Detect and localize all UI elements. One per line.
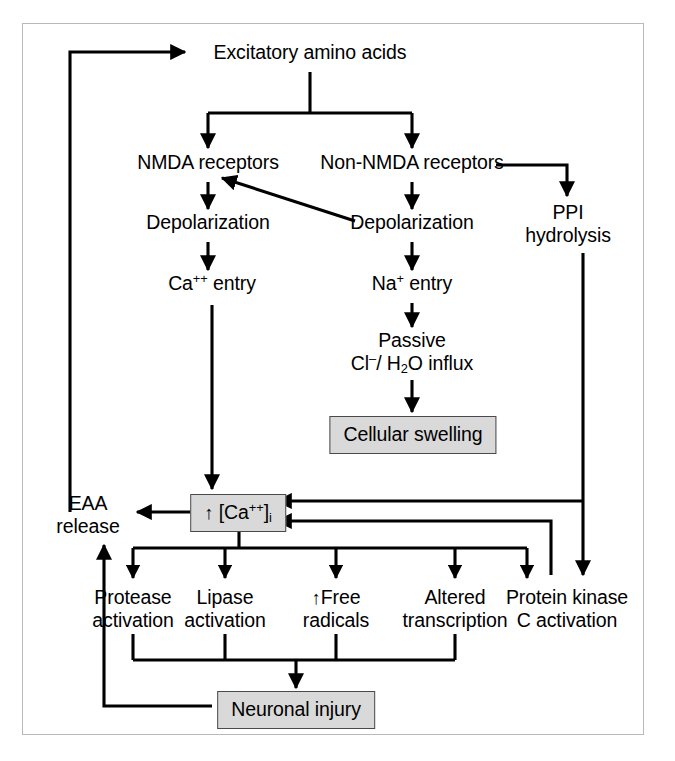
- node-label-line1: ↑Free: [303, 586, 369, 609]
- node-passive-influx: Passive Cl–/ H2O influx: [351, 329, 473, 375]
- node-protease-activation: Protease activation: [92, 586, 173, 632]
- box-neuronal-injury: Neuronal injury: [217, 691, 375, 729]
- node-excitatory-amino-acids: Excitatory amino acids: [214, 41, 407, 64]
- node-label: Non-NMDA receptors: [320, 151, 504, 173]
- box-label: Neuronal injury: [231, 698, 361, 720]
- node-label-text: Free: [321, 586, 361, 608]
- node-ppi-hydrolysis: PPI hydrolysis: [525, 201, 611, 247]
- node-depolarization-right: Depolarization: [350, 211, 473, 234]
- node-label: Depolarization: [146, 211, 269, 233]
- node-label-line2: C activation: [506, 609, 628, 632]
- node-label-line2: hydrolysis: [525, 224, 611, 247]
- node-label: Na: [372, 272, 397, 294]
- node-label-line2: Cl–/ H2O influx: [351, 352, 473, 375]
- node-label-line1: Passive: [351, 329, 473, 352]
- node-label: NMDA receptors: [137, 151, 279, 173]
- subscript-i: i: [269, 510, 272, 525]
- diagram-stage: Excitatory amino acids NMDA receptors No…: [0, 0, 675, 761]
- node-label-line2: activation: [92, 609, 173, 632]
- node-altered-transcription: Altered transcription: [403, 586, 508, 632]
- node-label-line1: Altered: [403, 586, 508, 609]
- node-label-line2: radicals: [303, 609, 369, 632]
- node-non-nmda-receptors: Non-NMDA receptors: [320, 151, 504, 174]
- node-free-radicals: ↑Free radicals: [303, 586, 369, 632]
- node-nmda-receptors: NMDA receptors: [137, 151, 279, 174]
- node-label-tail: O influx: [408, 352, 473, 374]
- node-ca-entry: Ca++ entry: [168, 272, 256, 295]
- box-cellular-swelling: Cellular swelling: [329, 416, 496, 454]
- box-intracellular-calcium: ↑ [Ca++]i: [190, 494, 286, 532]
- charge-superscript: ++: [249, 500, 264, 515]
- flow-connectors: [0, 0, 675, 761]
- ion-cl: Cl: [351, 352, 369, 374]
- node-label-line1: PPI: [525, 201, 611, 224]
- node-label: Depolarization: [350, 211, 473, 233]
- up-arrow-icon: ↑: [312, 587, 321, 608]
- charge-superscript: ++: [193, 271, 208, 286]
- node-label-line1: EAA: [56, 492, 119, 515]
- up-arrow-icon: ↑: [204, 502, 213, 523]
- node-label-mid: / H: [376, 352, 401, 374]
- node-label: Excitatory amino acids: [214, 41, 407, 63]
- node-label: Ca: [168, 272, 193, 294]
- node-label-line1: Protease: [92, 586, 173, 609]
- node-label-line2: release: [56, 515, 119, 538]
- node-protein-kinase-c-activation: Protein kinase C activation: [506, 586, 628, 632]
- node-label-line1: Lipase: [184, 586, 265, 609]
- node-depolarization-left: Depolarization: [146, 211, 269, 234]
- node-label-tail: entry: [208, 272, 256, 294]
- node-label-line1: Protein kinase: [506, 586, 628, 609]
- subscript-2: 2: [401, 361, 408, 376]
- node-label-line2: transcription: [403, 609, 508, 632]
- node-label-line2: activation: [184, 609, 265, 632]
- node-na-entry: Na+ entry: [372, 272, 452, 295]
- node-eaa-release: EAA release: [56, 492, 119, 538]
- box-label: Cellular swelling: [343, 423, 482, 445]
- node-label-tail: entry: [404, 272, 452, 294]
- node-lipase-activation: Lipase activation: [184, 586, 265, 632]
- box-label: [Ca: [213, 501, 248, 523]
